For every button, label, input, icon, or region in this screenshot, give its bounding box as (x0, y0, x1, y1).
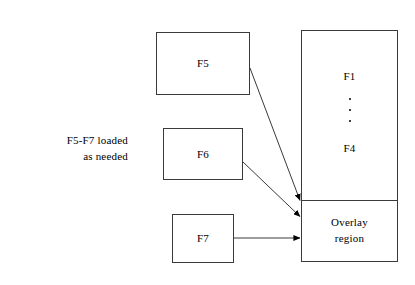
overlay-region-label-line-2: region (335, 232, 364, 244)
diagram-canvas: F5-F7 loaded as needed F5 F6 F7 F1 F4 Ov… (0, 0, 415, 285)
resident-label-f1: F1 (343, 70, 355, 82)
resident-label-f4: F4 (343, 142, 355, 154)
memory-resident-region: F1 F4 (302, 31, 397, 201)
module-box-f7-label: F7 (197, 232, 209, 245)
overlay-region: Overlay region (302, 201, 397, 261)
caption-line-1: F5-F7 loaded (8, 133, 128, 149)
arrow-f5-to-overlay (250, 68, 300, 201)
module-box-f6-label: F6 (197, 148, 209, 161)
overlay-region-label: Overlay region (331, 215, 368, 247)
arrow-f6-to-overlay (243, 162, 300, 217)
ellipsis-dot (349, 98, 351, 100)
module-box-f5-label: F5 (197, 57, 209, 70)
overlay-region-label-line-1: Overlay (331, 216, 368, 228)
ellipsis-dot (349, 120, 351, 122)
caption-f5-f7-loaded: F5-F7 loaded as needed (8, 133, 128, 165)
vertical-ellipsis-icon (349, 98, 351, 122)
memory-container: F1 F4 Overlay region (301, 30, 398, 262)
module-box-f6: F6 (163, 128, 243, 180)
ellipsis-dot (349, 109, 351, 111)
module-box-f5: F5 (156, 32, 250, 95)
module-box-f7: F7 (172, 214, 234, 263)
caption-line-2: as needed (8, 149, 128, 165)
